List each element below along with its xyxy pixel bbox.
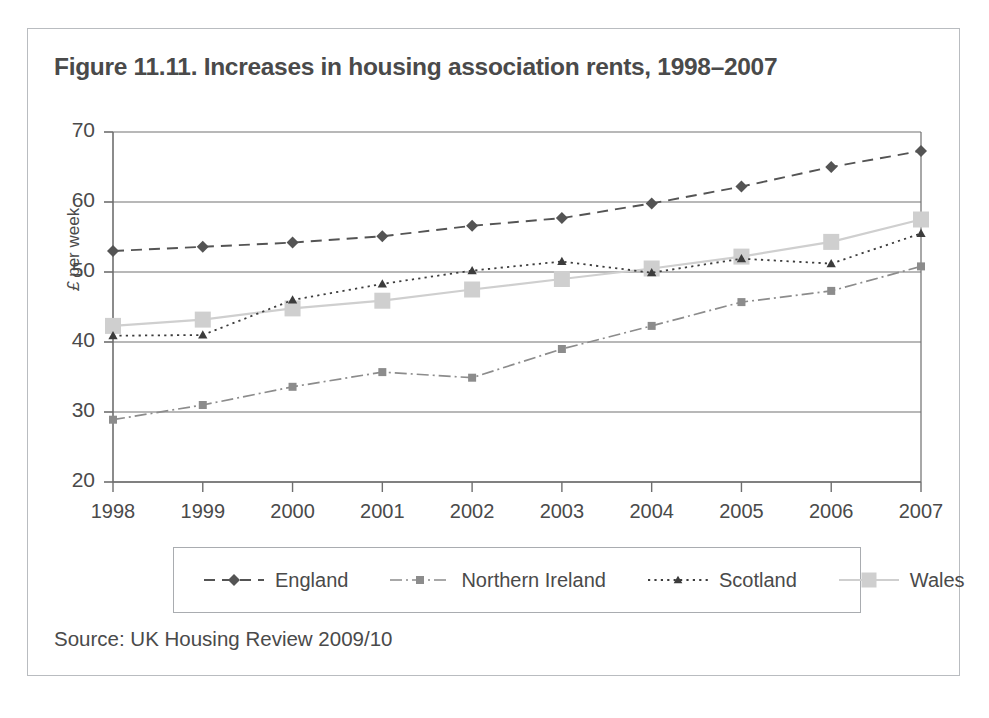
legend-item-england[interactable]: England — [202, 569, 348, 592]
x-tick-label-1999: 1999 — [163, 500, 243, 523]
legend-label: Wales — [910, 569, 965, 592]
data-point-2007 — [913, 212, 929, 228]
data-point-2001 — [378, 368, 386, 376]
x-tick-label-2003: 2003 — [522, 500, 602, 523]
legend-items: EnglandNorthern IrelandScotlandWales — [174, 548, 860, 612]
data-point-2002 — [466, 220, 478, 232]
gridlines — [113, 132, 921, 482]
series-northern-ireland — [109, 262, 925, 423]
data-point-1998 — [107, 245, 119, 257]
data-point-2007 — [915, 145, 927, 157]
legend-item-northern-ireland[interactable]: Northern Ireland — [388, 569, 606, 592]
data-point-1999 — [198, 330, 207, 338]
chart-legend: EnglandNorthern IrelandScotlandWales — [173, 547, 861, 613]
data-point-2001 — [378, 279, 387, 287]
data-point-2003 — [554, 271, 570, 287]
x-axis-ticks — [113, 482, 921, 492]
y-tick-label-30: 30 — [43, 398, 95, 422]
data-point-2002 — [464, 282, 480, 298]
y-tick-label-40: 40 — [43, 328, 95, 352]
data-point-2005 — [735, 181, 747, 193]
legend-label: Scotland — [719, 569, 797, 592]
x-tick-label-2005: 2005 — [701, 500, 781, 523]
data-point-2004 — [646, 197, 658, 209]
data-point-2001 — [374, 293, 390, 309]
legend-item-wales[interactable]: Wales — [837, 569, 965, 592]
legend-marker — [861, 573, 876, 588]
data-point-2000 — [288, 295, 297, 303]
data-point-2000 — [289, 383, 297, 391]
legend-swatch-square-icon — [388, 569, 452, 591]
data-point-2006 — [823, 234, 839, 250]
y-tick-label-20: 20 — [43, 468, 95, 492]
data-point-1999 — [199, 401, 207, 409]
data-point-2005 — [737, 298, 745, 306]
y-axis-title-currency: £ — [64, 282, 83, 291]
data-point-2007 — [917, 262, 925, 270]
legend-swatch-triangle-icon — [646, 569, 710, 591]
data-point-1999 — [197, 241, 209, 253]
legend-item-scotland[interactable]: Scotland — [646, 569, 797, 592]
data-point-2000 — [287, 237, 299, 249]
data-point-2003 — [558, 345, 566, 353]
series-line — [113, 220, 921, 326]
data-point-2007 — [916, 229, 925, 237]
data-point-2006 — [825, 161, 837, 173]
x-tick-label-2007: 2007 — [881, 500, 961, 523]
y-tick-label-70: 70 — [43, 118, 95, 142]
data-point-2004 — [648, 322, 656, 330]
data-point-2001 — [376, 230, 388, 242]
legend-swatch-diamond-icon — [202, 569, 266, 591]
series-england — [107, 145, 927, 257]
y-tick-label-50: 50 — [43, 258, 95, 282]
x-tick-label-2002: 2002 — [432, 500, 512, 523]
legend-marker — [416, 576, 424, 584]
series-wales — [105, 212, 929, 334]
y-tick-label-60: 60 — [43, 188, 95, 212]
legend-label: England — [275, 569, 348, 592]
data-point-2006 — [827, 259, 836, 267]
figure-card: Figure 11.11. Increases in housing assoc… — [27, 28, 960, 676]
x-tick-label-2004: 2004 — [612, 500, 692, 523]
data-point-2006 — [827, 287, 835, 295]
y-axis-ticks — [104, 132, 113, 482]
data-point-2002 — [468, 374, 476, 382]
x-tick-label-1998: 1998 — [73, 500, 153, 523]
legend-swatch-square-icon — [837, 569, 901, 591]
series-line — [113, 151, 921, 251]
legend-marker — [228, 574, 240, 586]
x-tick-label-2006: 2006 — [791, 500, 871, 523]
axes — [113, 132, 921, 482]
data-point-1999 — [195, 312, 211, 328]
legend-label: Northern Ireland — [461, 569, 606, 592]
source-note: Source: UK Housing Review 2009/10 — [54, 627, 392, 651]
x-tick-label-2000: 2000 — [253, 500, 333, 523]
data-point-1998 — [109, 416, 117, 424]
data-point-2003 — [556, 212, 568, 224]
data-series-layer — [105, 145, 929, 424]
x-tick-label-2001: 2001 — [342, 500, 422, 523]
series-line — [113, 266, 921, 419]
